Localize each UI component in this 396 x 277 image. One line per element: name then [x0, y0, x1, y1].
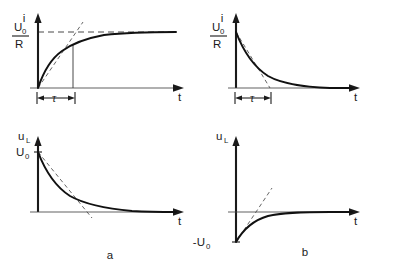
tangent-line-b-current: [236, 32, 270, 88]
figure-canvas: i t U 0 R τ: [0, 0, 396, 277]
tau-left-arrow-icon-b-current: [235, 95, 242, 100]
curve-a-voltage: [38, 152, 176, 212]
level-numerator-subscript-a-current: 0: [22, 27, 27, 36]
y-axis-arrow-icon-a-voltage: [34, 136, 41, 146]
level-label-subscript-b-voltage: 0: [206, 242, 211, 251]
level-label-a-voltage: U: [16, 146, 24, 158]
rl-transient-figure: i t U 0 R τ: [0, 0, 396, 277]
level-label-group-b-voltage: -U 0: [193, 236, 211, 251]
chart-b-current: i t U 0 R τ: [210, 12, 360, 104]
level-denominator-b-current: R: [213, 38, 221, 50]
y-axis-label-a-voltage: u: [18, 130, 24, 142]
level-label-b-voltage: -U: [193, 236, 205, 248]
y-axis-arrow-icon-b-voltage: [232, 136, 239, 146]
chart-a-current: i t U 0 R τ: [12, 12, 184, 104]
level-label-a-current: U 0 R: [12, 21, 29, 50]
y-axis-label-a-current: i: [23, 12, 26, 24]
chart-b-voltage: u L -U 0 t: [193, 130, 360, 251]
tau-left-arrow-icon-a-current: [37, 95, 44, 100]
curve-b-current: [236, 32, 352, 88]
x-axis-label-a-voltage: t: [178, 215, 182, 227]
level-denominator-a-current: R: [15, 38, 23, 50]
y-axis-arrow-icon-a-current: [34, 13, 41, 23]
y-axis-label-b-voltage: u: [216, 130, 222, 142]
level-label-subscript-a-voltage: 0: [25, 152, 30, 161]
y-axis-label-subscript-b-voltage: L: [224, 136, 229, 145]
curve-a-current: [38, 32, 176, 88]
y-axis-label-group-a-voltage: u L: [18, 130, 31, 145]
chart-a-voltage: u L U 0 t: [16, 130, 184, 227]
level-label-b-current: U 0 R: [210, 21, 227, 50]
x-axis-label-b-voltage: t: [354, 215, 358, 227]
y-axis-label-subscript-a-voltage: L: [26, 136, 31, 145]
level-numerator-subscript-b-current: 0: [220, 27, 225, 36]
level-label-group-a-voltage: U 0: [16, 146, 30, 161]
panel-caption-b: b: [302, 246, 308, 258]
y-axis-label-group-b-voltage: u L: [216, 130, 229, 145]
y-axis-label-b-current: i: [221, 12, 224, 24]
tau-right-arrow-icon-b-current: [264, 95, 271, 100]
tangent-line-a-voltage: [38, 152, 92, 218]
x-axis-label-b-current: t: [354, 91, 358, 103]
panel-caption-a: a: [107, 249, 114, 261]
x-axis-label-a-current: t: [178, 91, 182, 103]
tau-right-arrow-icon-a-current: [68, 95, 75, 100]
y-axis-arrow-icon-b-current: [232, 13, 239, 23]
